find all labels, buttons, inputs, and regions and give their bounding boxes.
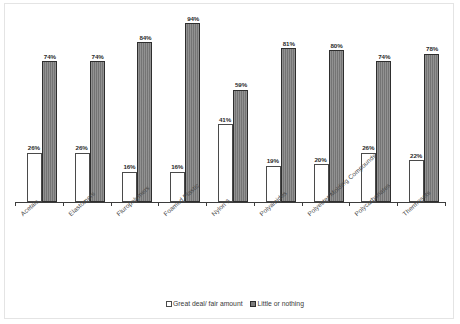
x-axis-tick bbox=[158, 202, 159, 206]
x-axis-tick bbox=[302, 202, 303, 206]
x-axis-category-labels: AcetalsElastomersFluropolymersFoamed Pla… bbox=[5, 4, 460, 324]
x-axis-label: Foamed Plastic bbox=[162, 182, 200, 218]
white-square-icon bbox=[166, 301, 172, 307]
legend-label-little-or-nothing: Little or nothing bbox=[257, 300, 303, 307]
chart-legend: Great deal/ fair amount Little or nothin… bbox=[5, 300, 460, 307]
x-axis-label: Polyamides bbox=[258, 189, 288, 217]
x-axis-tick bbox=[254, 202, 255, 206]
chart-frame: 26%74%26%74%16%84%16%94%41%59%19%81%20%8… bbox=[4, 3, 454, 319]
x-axis-tick bbox=[397, 202, 398, 206]
x-axis-tick bbox=[111, 202, 112, 206]
gray-square-icon bbox=[250, 301, 256, 307]
legend-item-little-or-nothing: Little or nothing bbox=[250, 300, 303, 307]
x-axis-tick bbox=[445, 202, 446, 206]
x-axis-label: Elastomers bbox=[67, 190, 96, 217]
x-axis-tick bbox=[63, 202, 64, 206]
x-axis-tick bbox=[349, 202, 350, 206]
x-axis-tick bbox=[206, 202, 207, 206]
x-axis-label: Thermosets bbox=[401, 189, 432, 217]
x-axis-label: Acetals bbox=[19, 197, 40, 217]
x-axis-tick bbox=[15, 202, 16, 206]
x-axis-label: Nylon 6 bbox=[210, 197, 231, 217]
x-axis-label: Fluropolymers bbox=[115, 184, 151, 217]
legend-label-great-deal-fair-amount: Great deal/ fair amount bbox=[173, 300, 243, 307]
x-axis-label: Polycarbonates bbox=[353, 182, 391, 218]
legend-item-great-deal-fair-amount: Great deal/ fair amount bbox=[166, 300, 243, 307]
